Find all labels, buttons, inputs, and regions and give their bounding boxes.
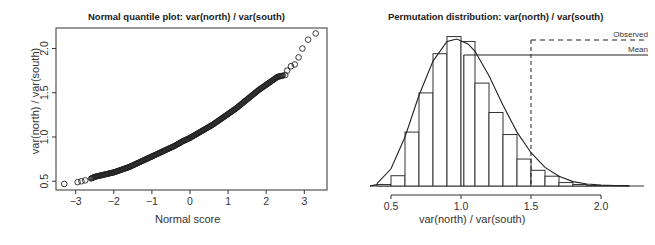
histogram-bar <box>475 83 489 186</box>
point-marker <box>82 178 88 184</box>
x-tick-label: −3 <box>70 195 82 207</box>
x-tick-label: 1 <box>225 195 231 207</box>
x-axis-label: var(north) / var(south) <box>419 213 525 225</box>
point-marker <box>79 178 85 184</box>
histogram-bar <box>419 93 433 186</box>
histogram-bar <box>461 41 475 186</box>
x-tick-label: 1.5 <box>524 200 539 212</box>
point-marker <box>313 31 319 37</box>
histogram-bar <box>405 132 419 186</box>
qq-plot-area: −3−2−101230.51.01.52.0 <box>0 0 330 245</box>
mean-label: Mean <box>628 45 648 54</box>
data-points <box>61 31 318 187</box>
x-tick-label: 2 <box>263 195 269 207</box>
x-tick-label: −2 <box>108 195 120 207</box>
y-axis-label: var(north) / var(south) <box>29 36 41 166</box>
x-tick-label: −1 <box>146 195 158 207</box>
observed-label: Observed <box>613 30 648 39</box>
x-tick-label: 2.0 <box>594 200 609 212</box>
histogram-bar <box>517 159 531 186</box>
point-marker <box>300 46 306 52</box>
histogram-plot-area: MeanObserved0.51.01.52.0 <box>330 0 655 245</box>
point-marker <box>61 181 67 187</box>
permutation-histogram: Permutation distribution: var(north) / v… <box>330 0 655 245</box>
point-marker <box>296 55 302 61</box>
histogram-bars <box>377 37 629 186</box>
histogram-bar <box>489 113 503 187</box>
x-tick-label: 1.0 <box>454 200 469 212</box>
x-axis-label: Normal score <box>155 213 220 225</box>
histogram-bar <box>377 185 391 186</box>
histogram-bar <box>573 185 587 186</box>
histogram-bar <box>433 54 447 186</box>
histogram-bar <box>545 176 559 186</box>
x-tick-label: 3 <box>301 195 307 207</box>
histogram-bar <box>447 37 461 186</box>
histogram-bar <box>559 183 573 186</box>
x-tick-label: 0 <box>187 195 193 207</box>
histogram-bar <box>391 176 405 186</box>
histogram-bar <box>503 135 517 186</box>
x-tick-label: 0.5 <box>384 200 399 212</box>
plot-frame <box>56 28 327 190</box>
normal-quantile-plot: Normal quantile plot: var(north) / var(s… <box>0 0 330 245</box>
y-tick-label: 0.5 <box>38 174 50 189</box>
point-marker <box>75 179 81 185</box>
histogram-bar <box>531 170 545 186</box>
point-marker <box>305 37 311 43</box>
